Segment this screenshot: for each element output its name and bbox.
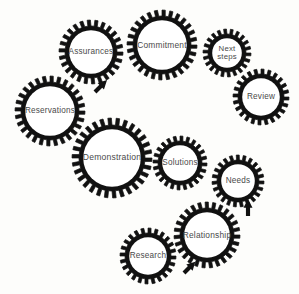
gear-inner-face [242, 78, 280, 116]
gear-reservations[interactable] [15, 76, 85, 146]
gear-commitment[interactable] [127, 10, 197, 80]
gear-inner-face [221, 164, 255, 198]
gear-next-steps[interactable] [203, 29, 251, 77]
gear-inner-face [25, 86, 75, 136]
gear-assurances[interactable] [59, 20, 123, 84]
gear-diagram-svg [0, 0, 299, 294]
gear-inner-face [83, 129, 141, 187]
gear-review[interactable] [233, 69, 289, 125]
arrow-to-needs [244, 199, 253, 216]
gear-inner-face [69, 30, 113, 74]
gear-inner-face [162, 145, 198, 181]
gear-relationship[interactable] [174, 202, 240, 268]
gear-inner-face [137, 20, 187, 70]
gear-needs[interactable] [212, 155, 264, 207]
gear-demonstration[interactable] [72, 118, 152, 198]
gear-inner-face [129, 237, 167, 275]
gear-solutions[interactable] [153, 136, 207, 190]
gear-research[interactable] [120, 228, 176, 284]
gear-inner-face [184, 212, 230, 258]
gear-diagram-canvas: AssurancesCommitmentNext stepsReviewRese… [0, 0, 299, 294]
gear-inner-face [212, 38, 242, 68]
